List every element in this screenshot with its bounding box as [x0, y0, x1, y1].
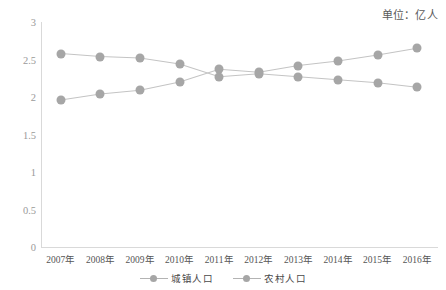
x-tick-label: 2013年	[284, 252, 313, 266]
line-chart: 单位：亿人 00.511.522.53 2007年2008年2009年2010年…	[0, 0, 446, 290]
data-point	[294, 61, 303, 70]
x-tick-label: 2010年	[165, 252, 194, 266]
x-tick-label: 2012年	[244, 252, 273, 266]
y-tick-label: 0	[4, 242, 36, 253]
y-axis: 00.511.522.53	[0, 0, 36, 290]
data-point	[413, 44, 422, 53]
y-tick-label: 2	[4, 92, 36, 103]
x-tick-label: 2009年	[126, 252, 155, 266]
x-tick-label: 2008年	[86, 252, 115, 266]
x-axis: 2007年2008年2009年2010年2011年2012年2013年2014年…	[41, 252, 438, 268]
data-point	[254, 69, 263, 78]
data-point	[413, 83, 422, 92]
data-point	[334, 57, 343, 66]
data-point	[334, 75, 343, 84]
data-point	[175, 78, 184, 87]
plot-area	[41, 22, 437, 247]
data-point	[136, 86, 145, 95]
y-tick-label: 3	[4, 17, 36, 28]
legend-marker-icon	[140, 274, 168, 283]
legend-item-urban-population[interactable]: 城镇人口	[140, 271, 213, 285]
x-tick-label: 2014年	[324, 252, 353, 266]
y-tick-label: 1.5	[4, 129, 36, 140]
x-axis-line	[41, 247, 438, 248]
legend-item-rural-population[interactable]: 农村人口	[233, 271, 306, 285]
series-line-urban	[61, 48, 417, 100]
chart-legend: 城镇人口农村人口	[0, 271, 446, 285]
y-tick-label: 0.5	[4, 204, 36, 215]
x-tick-label: 2011年	[205, 252, 234, 266]
data-point	[373, 51, 382, 60]
x-tick-label: 2007年	[46, 252, 75, 266]
data-point	[136, 54, 145, 63]
data-point	[56, 49, 65, 58]
data-point	[175, 60, 184, 69]
x-tick-label: 2016年	[403, 252, 432, 266]
data-point	[373, 78, 382, 87]
data-point	[215, 72, 224, 81]
data-point	[96, 52, 105, 61]
y-tick-label: 1	[4, 167, 36, 178]
y-tick-label: 2.5	[4, 54, 36, 65]
legend-label: 农村人口	[264, 271, 306, 285]
data-point	[56, 96, 65, 105]
legend-marker-icon	[233, 274, 261, 283]
data-point	[294, 72, 303, 81]
data-point	[96, 90, 105, 99]
unit-note: 单位：亿人	[382, 6, 439, 22]
x-tick-label: 2015年	[363, 252, 392, 266]
legend-label: 城镇人口	[171, 271, 213, 285]
